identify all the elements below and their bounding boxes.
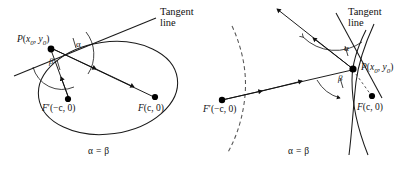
ellipse-ray-focus-left-arrow — [61, 77, 69, 99]
ellipse-caption-text: α = β — [88, 146, 109, 156]
hyperbola-tangent-label-line1: Tangent — [348, 6, 382, 17]
hyperbola-focus-right-label: F(c, 0) — [357, 102, 383, 112]
ellipse-alpha-text: α — [76, 39, 81, 49]
hyperbola-tangent-label: Tangent line — [348, 6, 382, 29]
hyperbola-beta-arc — [317, 80, 340, 98]
ellipse-ray-p-to-focus-right-arrow-2 — [96, 69, 134, 87]
ellipse-point-p-label: P(x0, y0) — [17, 34, 49, 47]
hyperbola-alpha-label: α — [344, 44, 349, 54]
ellipse-beta-label: β — [49, 57, 53, 67]
hyperbola-fr-coords: (c, 0) — [363, 102, 383, 112]
ellipse-alpha-label: α — [76, 40, 81, 50]
hyperbola-left-branch — [227, 26, 246, 154]
ellipse-tangent-label-line1: Tangent — [160, 6, 194, 17]
ellipse-focus-right-dot — [152, 94, 158, 100]
hyperbola-alpha-text: α — [344, 43, 349, 53]
hyperbola-focus-left-label: F′(−c, 0) — [203, 104, 236, 114]
hyperbola-caption-text: α = β — [288, 146, 309, 156]
hyperbola-beta-text: β — [338, 73, 342, 83]
ellipse-tangent-label: Tangent line — [160, 6, 194, 29]
hyperbola-p-close: ) — [390, 62, 393, 72]
ellipse-tangent-label-line2: line — [160, 17, 176, 28]
ellipse-caption: α = β — [88, 146, 109, 156]
hyperbola-diagram — [219, 9, 382, 155]
hyperbola-fl-coords: (−c, 0) — [211, 104, 236, 114]
ellipse-focus-left-dot — [65, 96, 71, 102]
hyperbola-caption: α = β — [288, 146, 309, 156]
ellipse-focus-right-label: F(c, 0) — [138, 103, 164, 113]
conic-reflection-figure: Tangent line P(x0, y0) α β F′(−c, 0) F(c… — [0, 0, 411, 169]
hyperbola-tangent-label-line2: line — [348, 17, 364, 28]
ellipse-fl-coords: (−c, 0) — [50, 103, 75, 113]
hyperbola-focus-right-dot — [369, 93, 375, 99]
ellipse-curve — [32, 33, 183, 144]
ellipse-fr-coords: (c, 0) — [144, 103, 164, 113]
ellipse-beta-text: β — [49, 56, 53, 66]
ellipse-p-close: ) — [46, 34, 49, 44]
hyperbola-point-p-label: P(x0, y0) — [361, 62, 393, 75]
hyperbola-point-p-dot — [349, 65, 356, 72]
hyperbola-incoming-arrow-1 — [222, 91, 262, 100]
hyperbola-focus-left-dot — [219, 97, 225, 103]
hyperbola-incoming-arrow-2 — [262, 81, 302, 91]
hyperbola-beta-label: β — [338, 74, 342, 84]
ellipse-focus-left-label: F′(−c, 0) — [42, 103, 75, 113]
